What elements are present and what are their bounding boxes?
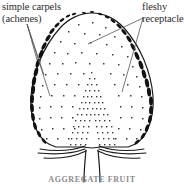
label-fleshy-receptacle-line2: receptacle — [142, 13, 184, 25]
label-simple-carpels-line1: simple carpels — [2, 1, 61, 13]
label-simple-carpels: simple carpels (achenes) — [2, 1, 61, 24]
fruit-illustration — [0, 0, 184, 184]
figure-caption: AGGREGATE FRUIT — [0, 175, 184, 184]
aggregate-fruit-figure: simple carpels (achenes) fleshy receptac… — [0, 0, 184, 184]
label-fleshy-receptacle-line1: fleshy — [142, 1, 184, 13]
label-fleshy-receptacle: fleshy receptacle — [142, 1, 184, 24]
label-simple-carpels-line2: (achenes) — [2, 13, 61, 25]
